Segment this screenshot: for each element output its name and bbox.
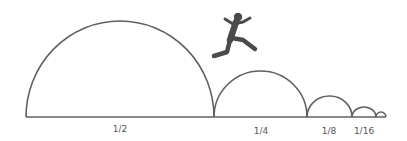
label-half: 1/2 bbox=[113, 124, 127, 134]
arc-quarter bbox=[214, 71, 307, 117]
arc-half bbox=[26, 21, 214, 117]
arc-sixteenth bbox=[352, 107, 376, 117]
running-person-icon bbox=[214, 13, 255, 56]
label-quarter: 1/4 bbox=[254, 126, 269, 136]
label-eighth: 1/8 bbox=[322, 126, 337, 136]
label-sixteenth: 1/16 bbox=[354, 126, 374, 136]
zeno-diagram: 1/2 1/4 1/8 1/16 bbox=[0, 0, 407, 141]
arc-eighth bbox=[307, 96, 352, 117]
